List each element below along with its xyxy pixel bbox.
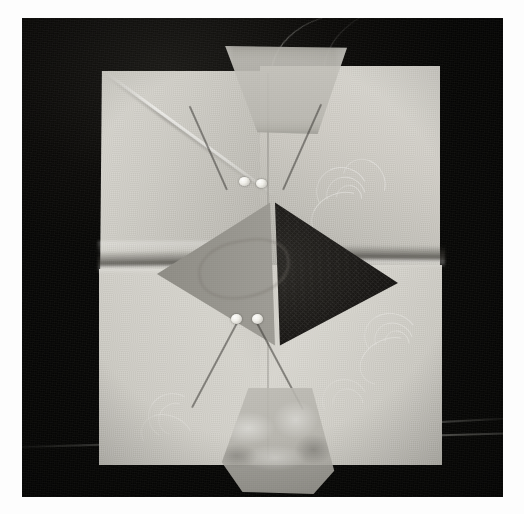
pin-upper-left-head	[239, 177, 250, 186]
photograph	[22, 18, 503, 497]
pin-lower-left-head	[231, 314, 242, 324]
photo-frame	[0, 0, 524, 514]
swirl-motif-center-right	[316, 373, 386, 443]
pin-lower-right-head	[252, 314, 263, 324]
swirl-motif-lower-left	[140, 385, 216, 461]
pin-upper-right-head	[256, 179, 267, 188]
center-diamond	[152, 198, 398, 350]
